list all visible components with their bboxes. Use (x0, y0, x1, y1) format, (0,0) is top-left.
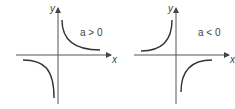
hyperbola-branch-q3 (23, 60, 54, 98)
y-axis-label: y (168, 4, 173, 14)
hyperbola-branch-q2 (141, 20, 172, 51)
condition-label: a > 0 (80, 28, 103, 38)
figure-a-negative (134, 8, 229, 104)
y-axis-label: y (50, 4, 55, 14)
condition-label: a < 0 (198, 28, 221, 38)
hyperbola-branch-q4 (181, 60, 212, 92)
x-axis-label: x (112, 55, 117, 65)
figure-a-positive (16, 8, 111, 104)
hyperbola-diagram (0, 0, 235, 109)
x-axis-label: x (230, 55, 235, 65)
